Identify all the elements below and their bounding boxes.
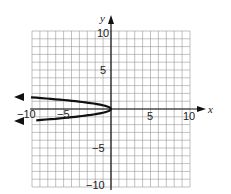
coordinate-plane: y x 10 5 −5 −10 −10 −5 5 10	[0, 0, 231, 194]
y-tick-5: 5	[100, 64, 106, 76]
y-tick-10: 10	[97, 27, 109, 39]
y-tick-neg10: −10	[86, 179, 105, 191]
y-axis-label: y	[99, 12, 105, 24]
y-tick-neg5: −5	[92, 142, 105, 154]
upper-arrowhead-icon	[14, 93, 24, 101]
x-tick-10: 10	[183, 110, 195, 122]
x-axis-arrow-icon	[197, 106, 206, 112]
x-tick-neg10: −10	[17, 108, 36, 120]
y-axis-arrow-icon	[108, 15, 114, 24]
x-tick-neg5: −5	[57, 108, 70, 120]
x-axis-label: x	[207, 103, 213, 115]
x-tick-5: 5	[147, 110, 153, 122]
